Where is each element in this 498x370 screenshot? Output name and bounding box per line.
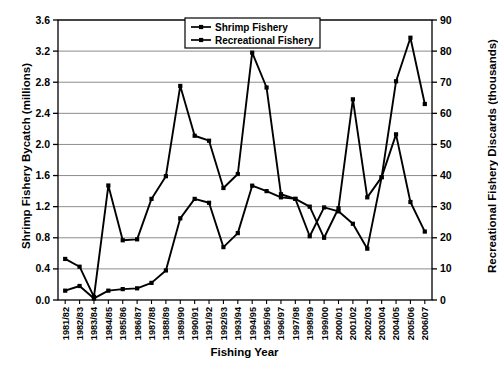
data-point (394, 132, 398, 136)
data-point (121, 238, 125, 242)
y-axis-left-tick-label: 2.4 (35, 107, 50, 119)
legend-swatch-marker-1 (199, 25, 203, 29)
data-point (322, 236, 326, 240)
data-point (207, 139, 211, 143)
data-point (408, 200, 412, 204)
x-axis-title: Fishing Year (0, 346, 489, 358)
data-point (351, 97, 355, 101)
data-point (149, 197, 153, 201)
x-axis-tick-label: 1986/87 (133, 307, 143, 340)
y-axis-left-tick-label: 1.6 (35, 169, 50, 181)
x-axis-tick-label: 2002/03 (363, 307, 373, 340)
y-axis-left-tick-label: 2.0 (35, 138, 50, 150)
y-axis-left-tick-label: 2.8 (35, 76, 50, 88)
x-axis-tick-label: 2000/01 (334, 307, 344, 340)
y-axis-right-tick-label: 20 (440, 231, 452, 243)
y-axis-right-tick-label: 30 (440, 200, 452, 212)
data-point (193, 134, 197, 138)
data-point (408, 36, 412, 40)
x-axis-tick-label: 2001/02 (348, 307, 358, 340)
x-axis-tick-label: 2004/05 (391, 307, 401, 340)
data-point (322, 205, 326, 209)
x-axis-tick-label: 1997/98 (291, 307, 301, 340)
data-point (423, 102, 427, 106)
y-axis-right-tick-label: 40 (440, 169, 452, 181)
x-axis-tick-label: 1988/89 (161, 307, 171, 340)
x-axis-tick-label: 1987/88 (147, 307, 157, 340)
y-axis-right-tick-label: 10 (440, 262, 452, 274)
data-point (178, 84, 182, 88)
data-point (380, 175, 384, 179)
data-point (250, 184, 254, 188)
data-point (221, 186, 225, 190)
x-axis-tick-label: 1982/83 (75, 307, 85, 340)
data-point (221, 245, 225, 249)
x-axis-tick-label: 1991/92 (204, 307, 214, 340)
data-point (135, 237, 139, 241)
y-axis-left-tick-label: 3.6 (35, 14, 50, 26)
x-axis-tick-label: 1993/94 (233, 306, 243, 340)
series-line-1 (65, 134, 425, 298)
data-point (279, 192, 283, 196)
data-point (293, 197, 297, 201)
x-axis-tick-label: 2005/06 (406, 307, 416, 340)
data-point (178, 216, 182, 220)
y-axis-right-tick-label: 70 (440, 76, 452, 88)
data-point (92, 295, 96, 299)
data-point (106, 289, 110, 293)
legend-label-2: Recreational Fishery (215, 35, 314, 46)
data-point (250, 51, 254, 55)
data-point (308, 234, 312, 238)
x-axis-tick-label: 1985/86 (118, 307, 128, 340)
data-point (236, 172, 240, 176)
data-point (106, 183, 110, 187)
legend-label-1: Shrimp Fishery (215, 22, 288, 33)
data-point (351, 222, 355, 226)
data-point (149, 281, 153, 285)
x-axis-tick-label: 1983/84 (89, 306, 99, 340)
data-point (77, 284, 81, 288)
series-line-2 (65, 38, 425, 297)
data-point (336, 206, 340, 210)
y-axis-right-title: Recreational Fishery Discards (thousands… (486, 16, 498, 296)
x-axis-tick-label: 2006/07 (420, 307, 430, 340)
data-point (63, 257, 67, 261)
data-point (308, 205, 312, 209)
y-axis-right-tick-label: 60 (440, 107, 452, 119)
x-axis-tick-label: 1990/91 (190, 307, 200, 340)
x-axis-tick-label: 1984/85 (104, 307, 114, 340)
x-axis-tick-label: 2003/04 (377, 306, 387, 340)
data-point (207, 201, 211, 205)
y-axis-left-tick-label: 3.2 (35, 45, 50, 57)
y-axis-right-tick-label: 0 (440, 294, 446, 306)
data-point (264, 85, 268, 89)
y-axis-left-title: Shrimp Fishery Bycatch (millions) (20, 26, 32, 286)
data-point (77, 265, 81, 269)
data-point (164, 174, 168, 178)
data-point (193, 197, 197, 201)
data-point (121, 287, 125, 291)
y-axis-left-tick-label: 0.4 (35, 262, 50, 274)
data-point (365, 247, 369, 251)
data-point (365, 195, 369, 199)
y-axis-left-tick-label: 0.8 (35, 231, 50, 243)
y-axis-left-tick-label: 0.0 (35, 294, 50, 306)
data-point (236, 231, 240, 235)
x-axis-tick-label: 1996/97 (276, 307, 286, 340)
data-point (63, 289, 67, 293)
x-axis-tick-label: 1989/90 (176, 307, 186, 340)
y-axis-right-tick-label: 80 (440, 45, 452, 57)
x-axis-tick-label: 1999/00 (320, 307, 330, 340)
y-axis-left-tick-label: 1.2 (35, 200, 50, 212)
legend-swatch-marker-2 (199, 38, 203, 42)
x-axis-tick-label: 1995/96 (262, 307, 272, 340)
data-point (264, 189, 268, 193)
x-axis-tick-label: 1981/82 (61, 307, 71, 340)
data-point (164, 268, 168, 272)
data-point (423, 229, 427, 233)
plot-frame (58, 20, 432, 300)
y-axis-right-tick-label: 50 (440, 138, 452, 150)
y-axis-right-tick-label: 90 (440, 14, 452, 26)
